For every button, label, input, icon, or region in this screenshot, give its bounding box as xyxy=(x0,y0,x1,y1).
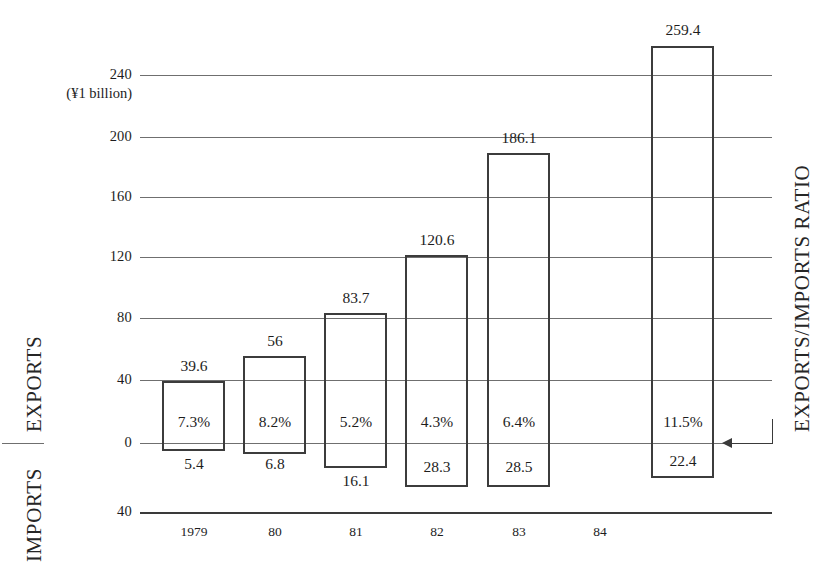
import-value-1979: 5.4 xyxy=(148,455,240,473)
import-value-84: 22.4 xyxy=(637,452,729,470)
ytick-label-240: 240 xyxy=(60,66,132,83)
xtick-label-84: 84 xyxy=(554,524,646,540)
xtick-label-83: 83 xyxy=(473,524,565,540)
import-value-80: 6.8 xyxy=(229,455,321,473)
annotation-elbow-vertical xyxy=(772,419,773,444)
annotation-arrowhead-icon xyxy=(722,438,732,448)
export-value-82: 120.6 xyxy=(391,231,483,249)
xtick-label-1979: 1979 xyxy=(148,524,240,540)
left-axis-label-imports: IMPORTS xyxy=(22,468,47,562)
ytick-label-160: 160 xyxy=(60,188,132,205)
ytick-label-0: 0 xyxy=(60,434,132,451)
xtick-label-82: 82 xyxy=(391,524,483,540)
export-value-1979: 39.6 xyxy=(148,357,240,375)
export-value-84: 259.4 xyxy=(637,21,729,39)
ytick-label-120: 120 xyxy=(60,248,132,265)
bar-80[interactable] xyxy=(243,356,306,454)
bar-81[interactable] xyxy=(324,313,387,468)
left-axis-label-exports: EXPORTS xyxy=(22,336,47,432)
ratio-value-1979: 7.3% xyxy=(148,413,240,431)
left-axis-divider xyxy=(2,443,44,444)
bar-82[interactable] xyxy=(405,255,468,487)
ytick-label-200: 200 xyxy=(60,128,132,145)
ytick-label-minus40: 40 xyxy=(60,503,132,520)
xtick-label-81: 81 xyxy=(310,524,402,540)
export-value-80: 56 xyxy=(229,332,321,350)
export-value-83: 186.1 xyxy=(473,129,565,147)
bar-83[interactable] xyxy=(487,153,550,487)
xtick-label-80: 80 xyxy=(229,524,321,540)
import-value-82: 28.3 xyxy=(391,458,483,476)
ratio-value-83: 6.4% xyxy=(473,413,565,431)
ratio-value-81: 5.2% xyxy=(310,413,402,431)
ratio-value-84: 11.5% xyxy=(633,413,733,431)
yaxis-unit-label: (¥1 billion) xyxy=(20,85,132,102)
import-value-81: 16.1 xyxy=(310,472,402,490)
right-axis-label-ratio: EXPORTS/IMPORTS RATIO xyxy=(790,165,815,432)
chart-canvas: 240 (¥1 billion) 200 160 120 80 40 0 40 … xyxy=(0,0,817,562)
ratio-value-80: 8.2% xyxy=(229,413,321,431)
ratio-value-82: 4.3% xyxy=(391,413,483,431)
ytick-label-40: 40 xyxy=(60,371,132,388)
import-value-83: 28.5 xyxy=(473,458,565,476)
annotation-elbow-horizontal xyxy=(729,443,773,444)
export-value-81: 83.7 xyxy=(310,289,402,307)
ytick-label-80: 80 xyxy=(60,309,132,326)
axis-baseline xyxy=(140,512,772,514)
